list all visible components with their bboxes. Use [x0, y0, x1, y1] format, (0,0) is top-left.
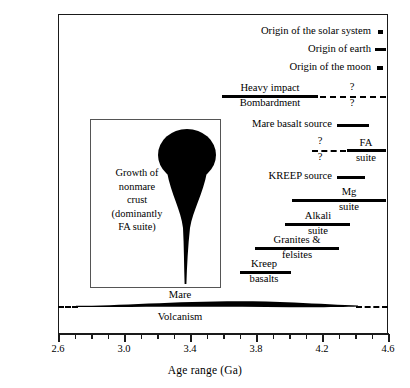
- label-alkali: Alkali: [305, 210, 331, 221]
- label-heavy-impact: Heavy impact: [240, 82, 299, 93]
- x-axis-tick-minor: [108, 334, 110, 339]
- x-axis-tick-label: 4.6: [381, 344, 394, 355]
- x-axis-tick-minor: [75, 334, 77, 339]
- label-basalts: basalts: [250, 273, 279, 284]
- lunar-chronology-figure: Origin of the solar system Origin of ear…: [0, 0, 410, 388]
- label-mg: Mg: [342, 186, 357, 197]
- x-axis-tick-minor: [141, 334, 143, 339]
- bar-mare-volcanism-uncertain-extension-right: [356, 306, 388, 308]
- label-origin-of-the-solar-system: Origin of the solar system: [261, 25, 371, 36]
- x-axis-tick-minor: [372, 334, 374, 339]
- annotation-heavy-impact-question-above: ?: [350, 82, 355, 93]
- x-axis-tick-major: [256, 334, 258, 342]
- x-axis-tick-minor: [174, 334, 176, 339]
- x-axis-tick-minor: [223, 334, 225, 339]
- x-axis-tick-minor: [289, 334, 291, 339]
- label-origin-of-the-moon: Origin of the moon: [289, 61, 371, 72]
- balloon-tail-growth-curve-icon: [151, 124, 221, 286]
- x-axis-tick-label: 4.2: [315, 344, 328, 355]
- inset-box-growth-of-nonmare-crust: Growth of nonmare crust (dominantly FA s…: [90, 119, 221, 288]
- marker-origin-of-earth-bar: [375, 48, 386, 51]
- x-axis-tick-minor: [157, 334, 159, 339]
- label-kreep: Kreep: [251, 258, 277, 269]
- label-kreep-source: KREEP source: [269, 170, 332, 181]
- marker-origin-of-the-solar-system-dot: [378, 30, 383, 34]
- x-axis-tick-label: 3.8: [249, 344, 262, 355]
- marker-origin-of-the-moon-dot: [377, 66, 383, 70]
- x-axis-tick-label: 3.4: [183, 344, 196, 355]
- bar-mare-volcanism-lens: [58, 296, 358, 314]
- x-axis-tick-major: [388, 334, 390, 342]
- label-fa-suite-below: suite: [356, 152, 376, 163]
- bar-kreep-source: [337, 176, 365, 179]
- x-axis-tick-minor: [207, 334, 209, 339]
- x-axis-tick-minor: [240, 334, 242, 339]
- x-axis-tick-label: 2.6: [51, 344, 64, 355]
- x-axis-tick-minor: [273, 334, 275, 339]
- x-axis-tick-minor: [91, 334, 93, 339]
- label-granites: Granites &: [274, 234, 321, 245]
- x-axis-tick-major: [190, 334, 192, 342]
- label-felsites: felsites: [282, 249, 312, 260]
- label-mg-suite-below: suite: [339, 201, 359, 212]
- x-axis-tick-minor: [339, 334, 341, 339]
- x-axis-tick-major: [58, 334, 60, 342]
- annotation-fa-suite-question-above: ?: [318, 136, 323, 147]
- x-axis-tick-minor: [306, 334, 308, 339]
- bar-mare-basalt-source: [337, 124, 369, 127]
- x-axis-tick-label: 3.0: [117, 344, 130, 355]
- x-axis-title: Age range (Ga): [0, 364, 410, 376]
- annotation-fa-suite-question-below: ?: [318, 152, 323, 163]
- x-axis-tick-minor: [355, 334, 357, 339]
- bar-mare-volcanism-uncertain-extension-left: [58, 306, 78, 308]
- annotation-heavy-impact-question-below: ?: [350, 98, 355, 109]
- label-fa: FA: [360, 137, 373, 148]
- label-bombardment: Bombardment: [240, 97, 301, 108]
- label-mare-basalt-source: Mare basalt source: [252, 118, 332, 129]
- label-volcanism: Volcanism: [158, 311, 203, 322]
- x-axis-tick-major: [322, 334, 324, 342]
- x-axis-tick-major: [124, 334, 126, 342]
- label-origin-of-earth: Origin of earth: [308, 43, 371, 54]
